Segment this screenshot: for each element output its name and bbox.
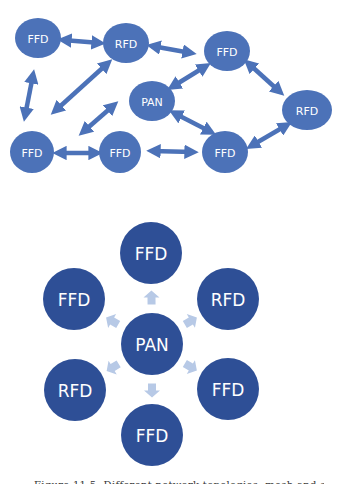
star-node-rfd: RFD: [44, 359, 106, 421]
mesh-node-ffd: FFD: [10, 131, 54, 173]
mesh-link-double-arrow: [251, 125, 287, 146]
star-node-ffd: FFD: [121, 404, 183, 466]
node-label: FFD: [58, 290, 91, 310]
mesh-link-double-arrow: [83, 105, 114, 132]
star-node-ffd: FFD: [120, 222, 182, 284]
node-label: RFD: [115, 38, 137, 51]
arrow-icon: [144, 384, 160, 398]
mesh-node-rfd: RFD: [282, 90, 332, 130]
node-label: FFD: [21, 147, 42, 160]
star-node-ffd: FFD: [197, 358, 259, 420]
node-label: PAN: [135, 335, 169, 355]
node-label: FFD: [212, 380, 245, 400]
node-label: RFD: [296, 105, 318, 118]
star-center-node-pan: PAN: [121, 313, 183, 375]
topology-diagram: FFDRFDFFDPANRFDFFDFFDFFD PANFFDRFDFFDFFD…: [0, 0, 348, 484]
node-label: FFD: [216, 46, 237, 59]
mesh-link-double-arrow: [174, 113, 211, 132]
node-label: FFD: [109, 147, 130, 160]
mesh-node-pan: PAN: [129, 81, 175, 121]
mesh-node-ffd: FFD: [204, 31, 250, 71]
node-label: RFD: [58, 381, 93, 401]
star-node-ffd: FFD: [43, 268, 105, 330]
node-label: FFD: [27, 33, 48, 46]
mesh-node-ffd: FFD: [15, 18, 61, 58]
mesh-node-ffd: FFD: [202, 131, 248, 173]
figure-caption: Figure 11.5: Different network topologie…: [34, 478, 324, 484]
mesh-link-double-arrow: [248, 63, 280, 92]
node-label: RFD: [211, 290, 246, 310]
arrow-icon: [103, 357, 123, 378]
mesh-link-double-arrow: [172, 66, 206, 87]
mesh-link-double-arrow: [25, 75, 33, 116]
node-label: PAN: [141, 96, 163, 109]
arrow-icon: [143, 290, 159, 304]
mesh-link-double-arrow: [152, 46, 191, 53]
arrow-icon: [102, 311, 122, 332]
arrow-icon: [181, 311, 201, 332]
arrow-icon: [181, 357, 201, 378]
mesh-link-double-arrow: [63, 40, 100, 43]
node-label: FFD: [135, 244, 168, 264]
node-label: FFD: [214, 147, 235, 160]
star-nodes: PANFFDRFDFFDFFDRFDFFD: [43, 222, 259, 466]
node-label: FFD: [136, 426, 169, 446]
mesh-link-double-arrow: [55, 63, 108, 111]
mesh-node-rfd: RFD: [103, 23, 149, 63]
mesh-link-double-arrow: [152, 151, 193, 152]
mesh-node-ffd: FFD: [99, 131, 141, 173]
star-node-rfd: RFD: [197, 268, 259, 330]
